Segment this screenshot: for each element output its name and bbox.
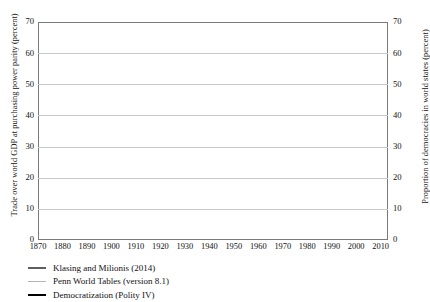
x-axis-ticks: 1870188018901900191019201930194019501960… bbox=[38, 243, 388, 257]
gridline-30 bbox=[38, 147, 388, 148]
y-tick-left-40: 40 bbox=[4, 111, 34, 120]
y-tick-right-40: 40 bbox=[393, 111, 423, 120]
gridline-40 bbox=[38, 115, 388, 116]
legend-swatch-penn-icon bbox=[28, 281, 46, 283]
y-tick-left-60: 60 bbox=[4, 49, 34, 58]
y-tick-left-30: 30 bbox=[4, 142, 34, 151]
x-tick-2010: 2010 bbox=[361, 243, 401, 251]
legend-label-demo: Democratization (Polity IV) bbox=[53, 290, 154, 300]
legend-label-klasing: Klasing and Milionis (2014) bbox=[53, 263, 155, 273]
legend-swatch-demo-icon bbox=[28, 294, 46, 296]
y-tick-right-10: 10 bbox=[393, 204, 423, 213]
y-tick-left-20: 20 bbox=[4, 173, 34, 182]
gridline-20 bbox=[38, 178, 388, 179]
legend-label-penn: Penn World Tables (version 8.1) bbox=[53, 276, 169, 286]
legend-item-demo[interactable]: Democratization (Polity IV) bbox=[28, 288, 328, 302]
legend-swatch-klasing-icon bbox=[28, 267, 46, 269]
plot-frame bbox=[38, 22, 388, 240]
chart-legend: Klasing and Milionis (2014)Penn World Ta… bbox=[28, 261, 328, 302]
y-tick-right-70: 70 bbox=[393, 17, 423, 26]
y-tick-left-50: 50 bbox=[4, 80, 34, 89]
y-tick-left-70: 70 bbox=[4, 17, 34, 26]
y-tick-right-50: 50 bbox=[393, 80, 423, 89]
y-tick-left-10: 10 bbox=[4, 204, 34, 213]
y-tick-right-60: 60 bbox=[393, 49, 423, 58]
plot-area bbox=[38, 22, 388, 240]
y-tick-right-20: 20 bbox=[393, 173, 423, 182]
legend-item-klasing[interactable]: Klasing and Milionis (2014) bbox=[28, 261, 328, 275]
legend-item-penn[interactable]: Penn World Tables (version 8.1) bbox=[28, 275, 328, 289]
gridline-60 bbox=[38, 53, 388, 54]
y-tick-right-30: 30 bbox=[393, 142, 423, 151]
gridline-10 bbox=[38, 209, 388, 210]
gridline-50 bbox=[38, 84, 388, 85]
